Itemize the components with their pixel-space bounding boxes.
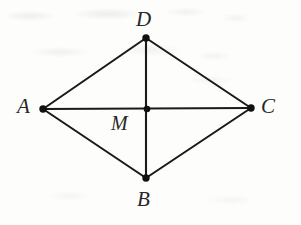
vertex-label-A: A [17, 96, 30, 117]
vertex-dot-A [39, 105, 46, 112]
vertex-label-B: B [137, 189, 150, 210]
vertex-label-C: C [261, 96, 275, 117]
vertex-dot-C [247, 104, 254, 111]
vertex-label-M: M [111, 113, 128, 133]
vertex-label-D: D [136, 9, 151, 30]
vertex-dot-D [142, 34, 149, 41]
geometry-figure: A D C B M [0, 0, 301, 225]
rhombus-diagram [0, 0, 301, 225]
edge-DC [146, 38, 251, 108]
edge-AD [43, 38, 146, 109]
edge-BA [43, 109, 146, 178]
vertex-dot-M [144, 106, 151, 113]
edge-CB [146, 108, 251, 178]
vertex-dot-B [142, 174, 149, 181]
